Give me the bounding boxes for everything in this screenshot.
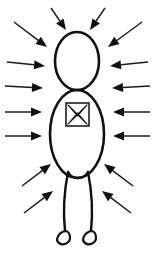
arrow-right-2: [112, 83, 150, 92]
stick-figure-drawing: [0, 0, 154, 253]
arrow-right-1: [110, 60, 148, 69]
left-foot: [57, 231, 70, 244]
arrow-head: [32, 83, 43, 92]
arrow-head: [108, 37, 120, 47]
arrow-shaft: [117, 22, 142, 40]
arrow-head: [113, 108, 124, 117]
arrow-head: [104, 164, 115, 174]
arrow-top-left-outer: [14, 22, 47, 47]
arrow-shaft: [113, 171, 133, 186]
arrow-head: [110, 60, 121, 69]
arrow-shaft: [7, 62, 34, 65]
arrow-right-4: [113, 132, 150, 141]
chest-box-icon: [66, 103, 89, 126]
right-foot: [83, 231, 96, 244]
arrow-shaft: [5, 86, 32, 87]
arrow-group-bottom: [22, 164, 133, 213]
arrow-head: [40, 164, 51, 174]
left-leg: [64, 172, 68, 231]
arrow-group-left: [5, 60, 45, 140]
arrow-shaft: [51, 8, 60, 21]
legs: [64, 172, 92, 231]
arrow-shaft: [111, 198, 131, 213]
arrow-bottom-right-1: [104, 164, 133, 186]
arrow-head: [34, 60, 45, 69]
arrow-head: [56, 18, 66, 30]
arrow-group-top: [14, 8, 142, 47]
arrow-head: [36, 37, 47, 47]
arrow-bottom-left-1: [22, 164, 51, 186]
arrow-shaft: [24, 198, 44, 213]
arrow-shaft: [96, 8, 105, 21]
arrow-left-3: [5, 108, 42, 117]
arrow-left-1: [7, 60, 45, 69]
right-leg: [88, 172, 92, 231]
arrow-shaft: [14, 22, 38, 40]
arrow-head: [112, 83, 123, 92]
arrow-bottom-right-2: [102, 191, 131, 213]
arrow-head: [42, 191, 53, 201]
arrow-head: [31, 108, 42, 117]
head: [55, 32, 99, 90]
feet: [57, 231, 96, 244]
figure-canvas: [0, 0, 154, 253]
arrow-head: [102, 191, 113, 201]
arrow-shaft: [22, 171, 42, 186]
arrow-head: [31, 132, 42, 141]
arrow-right-3: [113, 108, 150, 117]
arrow-head: [90, 18, 100, 30]
arrow-shaft: [123, 86, 150, 87]
arrow-top-left-inner: [51, 8, 66, 30]
arrow-top-right-outer: [108, 22, 142, 47]
arrow-head: [113, 132, 124, 141]
arrow-bottom-left-2: [24, 191, 53, 213]
arrow-top-right-inner: [90, 8, 105, 30]
arrow-shaft: [121, 62, 148, 65]
arrow-left-4: [5, 132, 42, 141]
arrow-group-right: [110, 60, 150, 140]
arrow-left-2: [5, 83, 43, 92]
